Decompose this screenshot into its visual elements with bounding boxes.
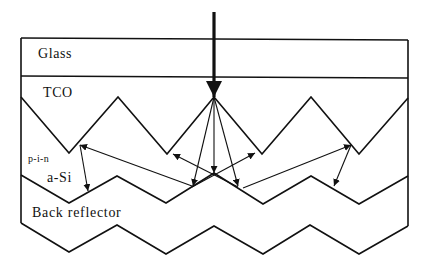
layer-sublabel-pin: p-i-n	[28, 154, 49, 164]
layer-label-back-reflector: Back reflector	[32, 206, 121, 220]
ray-cross-to-right	[192, 153, 255, 187]
layer-label-glass: Glass	[38, 47, 72, 61]
asi-backreflector-interface	[21, 173, 408, 204]
ray-left-down	[80, 145, 88, 191]
ray-long-left	[80, 145, 192, 186]
solar-cell-diagram: Glass TCO p-i-n a-Si Back reflector	[0, 0, 428, 268]
backreflector-bottom-edge	[21, 223, 408, 254]
diagram-graphics	[0, 0, 428, 268]
layer-label-asi: a-Si	[47, 171, 72, 185]
layer-label-tco: TCO	[43, 86, 73, 100]
